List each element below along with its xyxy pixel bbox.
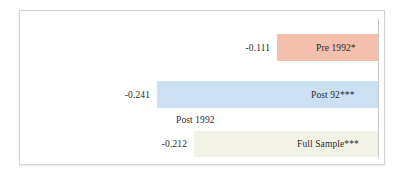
plot-area: -0.111 Pre 1992* -0.241 Post 92*** -0.21… [20, 11, 384, 164]
bar-category-label-full-sample: Full Sample*** [297, 139, 359, 149]
bar-row-pre-1992: -0.111 Pre 1992* [20, 34, 384, 61]
floating-annotation-post-1992: Post 1992 [176, 115, 215, 125]
chart-frame: -0.111 Pre 1992* -0.241 Post 92*** -0.21… [19, 10, 385, 165]
bar-value-label-post-92: -0.241 [95, 90, 150, 100]
bar-category-label-pre-1992: Pre 1992* [316, 43, 356, 53]
bar-row-post-92: -0.241 Post 92*** [20, 81, 384, 108]
bar-value-label-pre-1992: -0.111 [215, 43, 270, 53]
bar-category-label-post-92: Post 92*** [311, 90, 355, 100]
chart-screenshot: -0.111 Pre 1992* -0.241 Post 92*** -0.21… [0, 0, 399, 179]
bar-value-label-full-sample: -0.212 [132, 139, 187, 149]
bar-row-full-sample: -0.212 Full Sample*** [20, 131, 384, 157]
